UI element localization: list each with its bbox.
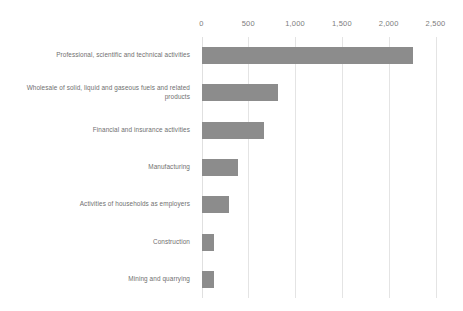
bar[interactable]: [202, 234, 214, 251]
x-tick-label: 2,500: [426, 19, 446, 28]
bar-chart: 0 500 1,000 1,500 2,000 2,500 Profession…: [0, 0, 463, 311]
x-axis-tick-labels: 0 500 1,000 1,500 2,000 2,500: [0, 0, 463, 34]
bar[interactable]: [202, 196, 230, 213]
bar-row: [202, 186, 436, 223]
bar[interactable]: [202, 271, 214, 288]
bar-row: [202, 74, 436, 111]
category-label-row: Mining and quarrying: [0, 261, 196, 298]
bar[interactable]: [202, 159, 238, 176]
category-label-row: Construction: [0, 223, 196, 260]
category-label: Financial and insurance activities: [93, 126, 190, 135]
bar-row: [202, 37, 436, 74]
category-label-row: Activities of households as employers: [0, 186, 196, 223]
x-tick-label: 2,000: [379, 19, 399, 28]
category-label: Construction: [153, 238, 190, 247]
x-tick-label: 1,000: [285, 19, 305, 28]
bars-layer: [202, 37, 436, 298]
category-label: Wholesale of solid, liquid and gaseous f…: [8, 84, 190, 101]
category-label: Activities of households as employers: [80, 200, 190, 209]
bar-row: [202, 112, 436, 149]
x-tick-label: 500: [242, 19, 255, 28]
bar-row: [202, 261, 436, 298]
category-label-row: Professional, scientific and technical a…: [0, 37, 196, 74]
category-label-row: Manufacturing: [0, 149, 196, 186]
bar[interactable]: [202, 84, 278, 101]
category-label: Mining and quarrying: [128, 275, 190, 284]
category-label: Manufacturing: [148, 163, 190, 172]
category-label-row: Financial and insurance activities: [0, 112, 196, 149]
bar-row: [202, 223, 436, 260]
bar-row: [202, 149, 436, 186]
category-label: Professional, scientific and technical a…: [56, 51, 190, 60]
x-tick-label: 1,500: [332, 19, 352, 28]
x-tick-label: 0: [199, 19, 203, 28]
category-label-row: Wholesale of solid, liquid and gaseous f…: [0, 74, 196, 111]
gridline: [436, 37, 437, 298]
bar[interactable]: [202, 122, 265, 139]
category-axis-labels: Professional, scientific and technical a…: [0, 37, 196, 298]
bar[interactable]: [202, 47, 413, 64]
